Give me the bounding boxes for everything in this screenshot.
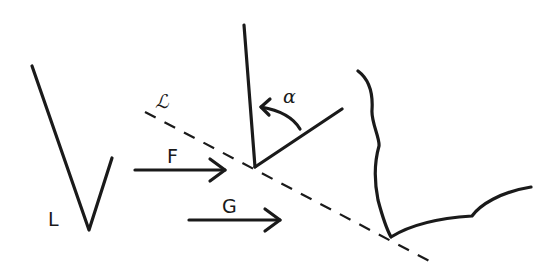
ray-oblique — [255, 109, 342, 167]
angle-arc — [261, 107, 300, 129]
label-script-L: ℒ — [155, 90, 170, 112]
label-F: F — [167, 145, 178, 167]
arrow-F — [135, 159, 225, 181]
label-L: L — [48, 208, 59, 230]
dashed-line-script-L — [145, 112, 435, 264]
wavy-boundary — [358, 71, 531, 237]
diagram-canvas: L ℒ F G α — [0, 0, 559, 272]
label-alpha: α — [283, 85, 296, 107]
label-G: G — [222, 195, 237, 217]
v-shape-strokes — [32, 66, 112, 230]
v-shape — [32, 66, 112, 230]
ray-vertical — [244, 25, 255, 167]
